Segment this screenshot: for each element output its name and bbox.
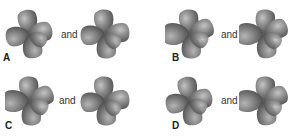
connector-text: and [61, 29, 78, 40]
option-c[interactable]: C and [0, 68, 146, 137]
connector-text: and [59, 95, 76, 106]
connector-text: and [221, 95, 238, 106]
option-label: D [172, 120, 179, 131]
option-a[interactable]: A and [0, 0, 146, 68]
orbital-a-left-icon [5, 6, 55, 62]
option-b[interactable]: B and [146, 0, 293, 68]
connector-text: and [221, 29, 238, 40]
option-d[interactable]: D and [146, 68, 293, 137]
option-label: A [3, 52, 10, 63]
option-label: B [172, 52, 179, 63]
orbital-c-right-icon [80, 73, 130, 129]
orbital-a-right-icon [80, 6, 130, 62]
orbital-b-right-icon [239, 6, 289, 62]
option-label: C [5, 120, 12, 131]
orbital-c-left-icon [5, 73, 55, 129]
orbital-d-right-icon [239, 73, 289, 129]
